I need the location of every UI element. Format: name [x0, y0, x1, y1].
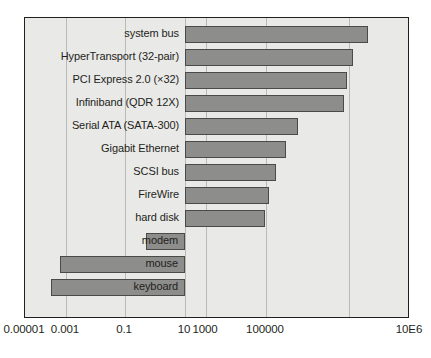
category-label: Infiniband (QDR 12X)	[0, 91, 184, 114]
category-label: mouse	[0, 252, 181, 275]
category-label: SCSI bus	[0, 160, 184, 183]
category-label: keyboard	[0, 275, 181, 298]
x-tick-label: 1000	[192, 323, 217, 335]
category-label: modem	[0, 229, 181, 252]
category-label: HyperTransport (32-pair)	[0, 45, 184, 68]
x-tick-label: 0.00001	[4, 323, 45, 335]
x-tick-label: 0.1	[116, 323, 132, 335]
x-tick-label: 100000	[246, 323, 284, 335]
x-tick-label: 10	[178, 323, 191, 335]
category-label: PCI Express 2.0 (×32)	[0, 68, 184, 91]
category-labels: system busHyperTransport (32-pair)PCI Ex…	[0, 17, 431, 318]
category-label: hard disk	[0, 206, 184, 229]
category-label: Gigabit Ethernet	[0, 137, 184, 160]
category-label: Serial ATA (SATA-300)	[0, 114, 184, 137]
x-tick-label: 0.001	[51, 323, 79, 335]
category-label: FireWire	[0, 183, 184, 206]
bar-chart-figure: system busHyperTransport (32-pair)PCI Ex…	[0, 0, 431, 358]
category-label: system bus	[0, 22, 184, 45]
x-axis-tick-labels: 0.000010.0010.110100010000010E6	[0, 323, 431, 343]
x-tick-label: 10E6	[396, 323, 422, 335]
